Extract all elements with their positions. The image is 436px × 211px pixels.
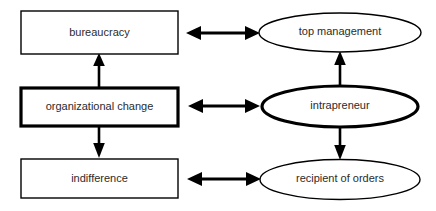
connector-organizational-change-to-indifference — [93, 126, 105, 158]
connector-organizational-change-intrapreneur — [188, 99, 260, 113]
arrowhead-up-icon — [334, 51, 346, 65]
node-top-management[interactable]: top management — [259, 13, 421, 52]
arrowhead-right-icon — [246, 172, 261, 186]
node-label-intrapreneur: intrapreneur — [310, 99, 370, 111]
node-bureaucracy[interactable]: bureaucracy — [21, 11, 178, 54]
arrowhead-down-icon — [334, 145, 346, 160]
arrowhead-left-icon — [187, 172, 202, 186]
connector-intrapreneur-to-top-management — [334, 51, 346, 88]
node-intrapreneur[interactable]: intrapreneur — [262, 86, 418, 127]
node-label-organizational-change: organizational change — [46, 100, 154, 112]
node-indifference[interactable]: indifference — [21, 159, 178, 198]
arrowhead-up-icon — [93, 53, 105, 66]
arrowhead-down-icon — [93, 143, 105, 158]
connector-organizational-change-to-bureaucracy — [93, 53, 105, 90]
connector-bureaucracy-top-management — [186, 26, 260, 40]
diagram-svg: bureaucracy organizational change indiff… — [0, 0, 436, 211]
diagram-canvas: bureaucracy organizational change indiff… — [0, 0, 436, 211]
arrowhead-left-icon — [188, 99, 203, 113]
arrowhead-left-icon — [186, 26, 201, 40]
node-label-indifference: indifference — [71, 172, 128, 184]
node-label-bureaucracy: bureaucracy — [69, 26, 130, 38]
connector-indifference-recipient-of-orders — [187, 172, 261, 186]
arrowhead-right-icon — [245, 99, 260, 113]
node-label-recipient-of-orders: recipient of orders — [296, 172, 385, 184]
node-label-top-management: top management — [299, 25, 382, 37]
node-organizational-change[interactable]: organizational change — [21, 88, 178, 126]
node-recipient-of-orders[interactable]: recipient of orders — [260, 160, 420, 200]
connector-intrapreneur-to-recipient-of-orders — [334, 126, 346, 160]
arrowhead-right-icon — [245, 26, 260, 40]
